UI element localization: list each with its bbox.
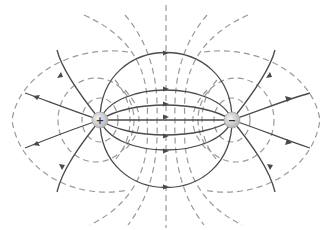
field-lines (25, 50, 310, 192)
dipole-diagram: + − (0, 0, 324, 230)
field-diagram-svg: + − (0, 0, 324, 230)
positive-charge: + (92, 112, 108, 128)
minus-sign-icon: − (228, 115, 236, 126)
negative-charge: − (224, 112, 240, 128)
plus-sign-icon: + (96, 115, 104, 126)
